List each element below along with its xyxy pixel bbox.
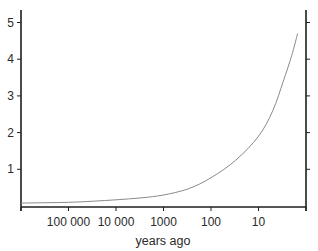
y-tick-label: 1 [7,162,14,176]
line-chart: 12345 100 00010 000100010010 years ago [0,0,318,251]
data-series-line [21,34,298,204]
x-tick-label: 100 [201,215,221,229]
x-axis-ticks: 100 00010 000100010010 [21,207,306,229]
x-axis-label: years ago [136,234,191,248]
y-tick-label: 5 [7,16,14,30]
x-tick-label: 1000 [150,215,177,229]
y-tick-label: 4 [7,52,14,66]
axes [21,10,306,211]
y-tick-label: 2 [7,126,14,140]
x-tick-label: 10 [252,215,266,229]
chart-container: 12345 100 00010 000100010010 years ago [0,0,318,251]
y-axis-ticks: 12345 [7,16,310,177]
x-tick-label: 10 000 [98,215,135,229]
x-tick-label: 100 000 [47,215,91,229]
y-tick-label: 3 [7,89,14,103]
